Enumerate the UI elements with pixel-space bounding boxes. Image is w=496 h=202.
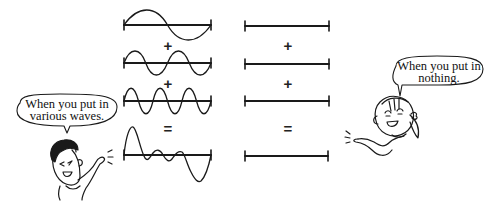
left-speech-text: When you put in various waves. (25, 98, 109, 122)
right-speech-text: When you put in nothing. (397, 60, 481, 84)
right-character-girl (345, 96, 419, 155)
left-speech-line-2: various waves. (25, 110, 109, 122)
flat-line-sum (245, 151, 328, 161)
flat-line-1 (245, 21, 329, 31)
left-character-boy (51, 140, 113, 200)
plus-operator-left-1: + (164, 38, 173, 53)
equals-operator-left: = (164, 121, 173, 136)
wave-1 (124, 10, 211, 40)
wave-3 (124, 88, 211, 114)
right-speech-line-2: nothing. (397, 72, 481, 84)
flat-line-2 (245, 59, 329, 69)
plus-operator-left-2: + (164, 76, 173, 91)
flat-line-3 (245, 96, 329, 106)
equals-operator-right: = (284, 121, 293, 136)
plus-operator-right-1: + (284, 38, 293, 53)
plus-operator-right-2: + (284, 76, 293, 91)
wave-2 (124, 51, 211, 75)
